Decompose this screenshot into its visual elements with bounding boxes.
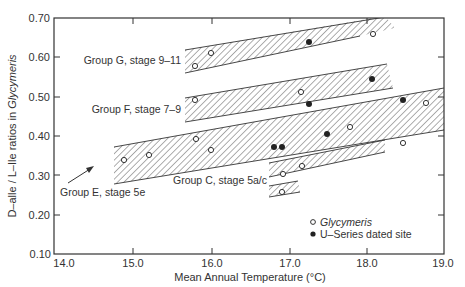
y-tick-050: 0.50 — [29, 91, 50, 103]
chart-canvas: 14.0 15.0 16.0 17.0 18.0 19.0 0.10 0.20 … — [0, 0, 465, 287]
x-axis-title: Mean Annual Temperature (°C) — [174, 271, 326, 283]
annotation-group-f: Group F, stage 7–9 — [92, 103, 181, 115]
y-tick-labels: 0.10 0.20 0.30 0.40 0.50 0.60 0.70 — [29, 12, 51, 260]
y-tick-040: 0.40 — [29, 130, 50, 142]
x-tick-18: 18.0 — [356, 257, 377, 269]
annotation-group-e: Group E, stage 5e — [60, 186, 145, 198]
y-tick-060: 0.60 — [29, 51, 50, 63]
x-tick-19: 19.0 — [432, 257, 453, 269]
y-axis-title-italic: Glycymeris — [6, 54, 18, 109]
y-tick-070: 0.70 — [29, 12, 50, 24]
annotation-group-g: Group G, stage 9–11 — [84, 54, 181, 66]
y-axis-title: D–alle / L–Ile ratios in Glycymeris — [6, 54, 18, 218]
annotation-group-c: Group C, stage 5a/c — [173, 174, 267, 186]
y-tick-020: 0.20 — [29, 209, 50, 221]
x-tick-16: 16.0 — [201, 257, 222, 269]
y-tick-010: 0.10 — [30, 248, 51, 260]
x-tick-15: 15.0 — [122, 257, 143, 269]
x-tick-14: 14.0 — [53, 257, 74, 269]
legend-open-circle-icon — [311, 220, 316, 225]
y-axis-title-prefix: D–alle / L–Ile ratios in — [6, 109, 18, 218]
legend-label-u-series: U–Series dated site — [320, 228, 412, 240]
y-tick-030: 0.30 — [29, 170, 50, 182]
legend: Glycymeris U–Series dated site — [310, 216, 411, 240]
legend-filled-circle-icon — [310, 231, 315, 236]
x-tick-labels: 14.0 15.0 16.0 17.0 18.0 19.0 — [53, 257, 453, 269]
legend-label-glycymeris: Glycymeris — [320, 216, 373, 228]
arrow-icon — [68, 166, 94, 183]
x-tick-17: 17.0 — [279, 257, 300, 269]
